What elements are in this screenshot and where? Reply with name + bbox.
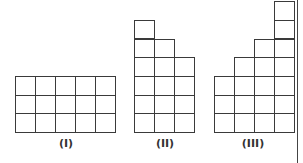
grid-square <box>254 39 275 59</box>
grid-square <box>274 95 295 115</box>
grid-square <box>134 113 155 133</box>
grid-square <box>214 113 235 133</box>
grid-square <box>75 113 96 133</box>
grid-square <box>55 95 76 115</box>
grid-square <box>154 95 175 115</box>
grid-square <box>214 76 235 96</box>
grid-square <box>35 76 56 96</box>
grid-square <box>134 76 155 96</box>
grid-square <box>75 76 96 96</box>
grid-square <box>15 76 36 96</box>
grid-square <box>55 76 76 96</box>
grid-square <box>174 57 195 77</box>
grid-square <box>95 113 116 133</box>
grid-square <box>254 95 275 115</box>
grid-square <box>234 76 255 96</box>
grid-square <box>274 113 295 133</box>
grid-square <box>254 113 275 133</box>
grid-square <box>274 39 295 59</box>
grid-square <box>95 95 116 115</box>
grid-square <box>254 57 275 77</box>
grid-square <box>274 20 295 40</box>
grid-square <box>55 113 76 133</box>
grid-square <box>15 113 36 133</box>
grid-square <box>274 76 295 96</box>
grid-square <box>35 113 56 133</box>
grid-square <box>134 95 155 115</box>
grid-square <box>134 39 155 59</box>
grid-square <box>154 39 175 59</box>
grid-square <box>154 76 175 96</box>
grid-square <box>95 76 116 96</box>
grid-square <box>254 76 275 96</box>
grid-square <box>234 57 255 77</box>
grid-square <box>274 1 295 21</box>
grid-square <box>234 95 255 115</box>
figure-label-iii: (III) <box>233 137 273 150</box>
figure-label-ii: (II) <box>145 137 185 150</box>
grid-square <box>214 95 235 115</box>
grid-square <box>234 113 255 133</box>
grid-square <box>154 57 175 77</box>
grid-square <box>134 20 155 40</box>
grid-square <box>174 76 195 96</box>
grid-square <box>134 57 155 77</box>
grid-square <box>174 95 195 115</box>
grid-square <box>274 57 295 77</box>
grid-square <box>174 113 195 133</box>
grid-square <box>35 95 56 115</box>
grid-square <box>75 95 96 115</box>
grid-square <box>154 113 175 133</box>
grid-square <box>15 95 36 115</box>
figure-label-i: (I) <box>46 137 86 150</box>
right-border-line <box>297 0 298 163</box>
